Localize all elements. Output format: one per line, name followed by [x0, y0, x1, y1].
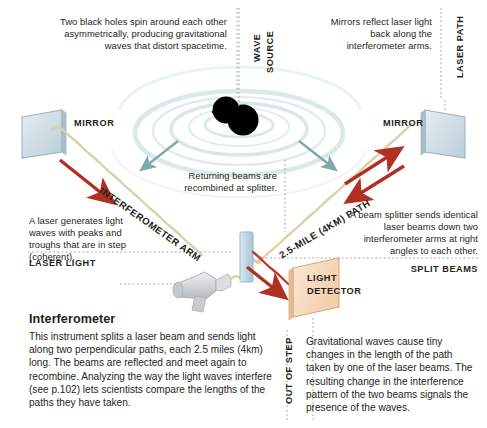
- callout-mirrors-reflect: Mirrors reflect laser light back along t…: [310, 16, 432, 52]
- label-wave: WAVE: [252, 34, 262, 62]
- arrow-left-arm: [60, 160, 105, 196]
- mirror-right: [421, 110, 465, 158]
- label-mirror-left: MIRROR: [74, 118, 114, 130]
- label-light-detector-line1: LIGHT: [307, 273, 337, 285]
- mirror-left: [22, 110, 66, 158]
- label-laser-light: LASER LIGHT: [29, 258, 96, 270]
- label-source: SOURCE: [265, 31, 275, 73]
- callout-beam-splitter: A beam splitter sends identical laser be…: [340, 209, 478, 256]
- callout-gravitational-waves: Gravitational waves cause tiny changes i…: [306, 335, 476, 414]
- callout-returning-beams: Returning beams are recombined at splitt…: [160, 170, 277, 194]
- callout-black-holes: Two black holes spin around each other a…: [52, 16, 227, 52]
- diagram-canvas: Two black holes spin around each other a…: [0, 0, 487, 428]
- callout-laser-generates: A laser generates light waves with peaks…: [29, 215, 139, 262]
- page-title: Interferometer: [29, 312, 115, 328]
- laser-source-icon: [173, 272, 231, 312]
- label-mirror-right: MIRROR: [383, 118, 423, 130]
- interferometer-description: This instrument splits a laser beam and …: [29, 330, 274, 409]
- label-out-of-step: OUT OF STEP: [284, 337, 294, 404]
- label-split-beams: SPLIT BEAMS: [358, 264, 478, 276]
- label-laser-path: LASER PATH: [455, 16, 465, 78]
- label-light-detector-line2: DETECTOR: [307, 286, 361, 298]
- beam-splitter: [240, 232, 253, 282]
